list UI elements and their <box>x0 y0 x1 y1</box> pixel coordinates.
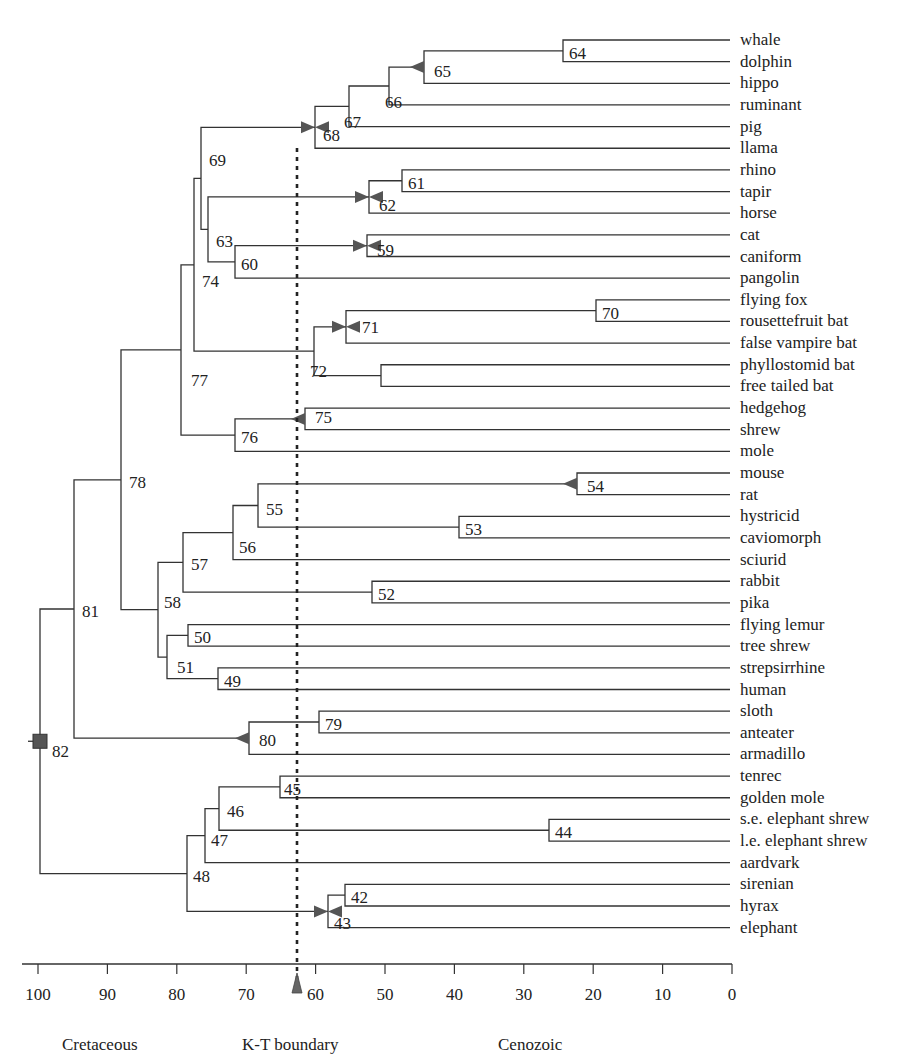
branch-node-68 <box>315 106 730 148</box>
leaf-label: ruminant <box>740 95 802 114</box>
node-label-54: 54 <box>587 477 605 496</box>
triangle-left-icon <box>563 478 577 490</box>
branch-node-44 <box>549 819 730 841</box>
leaf-label: tree shrew <box>740 636 811 655</box>
branch-node-55 <box>258 484 577 527</box>
branch-node-46 <box>219 787 549 830</box>
leaf-label: flying lemur <box>740 615 825 634</box>
leaf-label: aardvark <box>740 853 800 872</box>
branch-node-60 <box>235 246 730 278</box>
branch-node-67 <box>349 86 730 127</box>
node-label-43: 43 <box>334 914 351 933</box>
leaf-label: pangolin <box>740 268 800 287</box>
node-label-69: 69 <box>209 151 226 170</box>
leaf-label: tenrec <box>740 766 782 785</box>
leaf-label: dolphin <box>740 52 792 71</box>
node-label-56: 56 <box>239 538 256 557</box>
node-label-52: 52 <box>378 585 395 604</box>
leaf-label: whale <box>740 30 781 49</box>
branch-node-47 <box>205 809 730 863</box>
leaf-label: hyrax <box>740 896 779 915</box>
node-label-53: 53 <box>465 520 482 539</box>
branch-node-75 <box>305 408 730 430</box>
triangle-up-icon <box>292 973 302 993</box>
branch-node-50 <box>188 625 730 647</box>
branch-node-53 <box>459 516 730 538</box>
branch-node-82 <box>40 609 187 874</box>
triangle-right-icon <box>301 121 315 133</box>
leaf-label: cat <box>740 225 760 244</box>
leaf-label: shrew <box>740 420 781 439</box>
axis-tick-label: 40 <box>446 985 463 1004</box>
node-label-79: 79 <box>325 715 342 734</box>
leaf-labels: whaledolphinhipporuminantpigllamarhinota… <box>740 30 870 937</box>
leaf-label: golden mole <box>740 788 825 807</box>
node-label-65: 65 <box>434 62 451 81</box>
axis-tick-label: 60 <box>307 985 324 1004</box>
leaf-label: human <box>740 680 787 699</box>
node-label-70: 70 <box>602 304 619 323</box>
leaf-label: rat <box>740 485 758 504</box>
tree-markers <box>28 61 577 917</box>
leaf-label: pig <box>740 117 762 136</box>
node-label-71: 71 <box>362 318 379 337</box>
leaf-label: mole <box>740 441 774 460</box>
leaf-label: phyllostomid bat <box>740 355 855 374</box>
triangle-left-icon <box>346 321 360 333</box>
triangle-right-icon <box>355 191 369 203</box>
node-label-64: 64 <box>569 44 587 63</box>
node-label-61: 61 <box>408 174 425 193</box>
node-label-81: 81 <box>82 602 99 621</box>
phylogenetic-tree: 6465666768616259606369747071727775765453… <box>0 0 921 1060</box>
node-label-68: 68 <box>323 126 340 145</box>
square-icon <box>33 734 47 748</box>
branch-node-52 <box>372 581 730 603</box>
era-cenozoic: Cenozoic <box>498 1035 563 1054</box>
leaf-label: l.e. elephant shrew <box>740 831 868 850</box>
time-axis: 1009080706050403020100 <box>22 964 736 1004</box>
node-label-60: 60 <box>241 255 258 274</box>
leaf-label: sciurid <box>740 550 787 569</box>
leaf-label: rhino <box>740 160 776 179</box>
branch-node-59 <box>367 235 730 257</box>
branch-node-49 <box>218 668 730 690</box>
triangle-left-icon <box>410 61 424 73</box>
leaf-label: anteater <box>740 723 794 742</box>
node-label-77: 77 <box>191 371 209 390</box>
node-label-42: 42 <box>351 888 368 907</box>
branch-node-81 <box>74 480 249 738</box>
branch-node-57 <box>183 533 372 593</box>
leaf-label: caviomorph <box>740 528 822 547</box>
era-kt-boundary: K-T boundary <box>242 1035 339 1054</box>
branch-node-80 <box>249 722 730 754</box>
axis-tick-label: 100 <box>25 985 51 1004</box>
leaf-label: flying fox <box>740 290 808 309</box>
branch-node-64 <box>563 40 730 62</box>
axis-tick-label: 0 <box>728 985 737 1004</box>
node-label-46: 46 <box>227 802 244 821</box>
node-label-55: 55 <box>266 500 283 519</box>
branch-node-45 <box>280 776 730 798</box>
node-label-75: 75 <box>315 408 332 427</box>
axis-tick-label: 10 <box>654 985 671 1004</box>
node-label-76: 76 <box>241 428 258 447</box>
node-label-66: 66 <box>385 93 402 112</box>
leaf-label: tapir <box>740 182 771 201</box>
leaf-label: elephant <box>740 918 798 937</box>
triangle-left-icon <box>235 732 249 744</box>
leaf-label: rousettefruit bat <box>740 311 848 330</box>
node-label-72: 72 <box>310 362 327 381</box>
leaf-label: hystricid <box>740 506 800 525</box>
leaf-label: mouse <box>740 463 784 482</box>
axis-tick-label: 50 <box>377 985 394 1004</box>
leaf-label: horse <box>740 203 777 222</box>
leaf-label: free tailed bat <box>740 376 834 395</box>
leaf-label: s.e. elephant shrew <box>740 809 870 828</box>
node-label-58: 58 <box>164 593 181 612</box>
branch-node-61 <box>402 170 730 192</box>
leaf-label: caniform <box>740 247 801 266</box>
branch-node-71 <box>346 311 730 343</box>
branch-node-42 <box>345 884 730 906</box>
branch-node-43 <box>328 895 730 927</box>
leaf-label: rabbit <box>740 571 780 590</box>
